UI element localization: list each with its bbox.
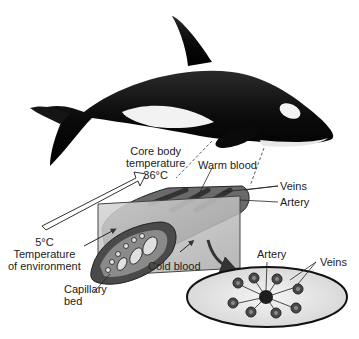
env-line1: Temperature [8,248,81,260]
cold-blood-label: Cold blood [148,260,201,272]
warm-blood-label: Warm blood [198,159,257,171]
veins-label-top: Veins [280,180,307,192]
env-line2: of environment [8,260,81,272]
vessel-cross-section [187,267,347,327]
orca-illustration [30,16,333,166]
capillary-line1: Capillary [64,283,107,295]
capillary-line2: bed [64,295,107,307]
env-temp-value: 5°C [8,236,81,248]
core-body-line2: temperature [126,157,185,169]
countercurrent-diagram: Core body temperature 36°C Warm blood Ve… [0,0,359,339]
artery-label-top: Artery [280,196,309,208]
veins-cross-label: Veins [320,256,347,268]
core-body-temp-label: Core body temperature 36°C [126,145,185,181]
capillary-bed-label: Capillary bed [64,283,107,307]
core-body-temp-value: 36°C [126,169,185,181]
core-body-line1: Core body [126,145,185,157]
environment-temp-label: 5°C Temperature of environment [8,236,81,272]
artery-cross-label: Artery [257,248,286,260]
